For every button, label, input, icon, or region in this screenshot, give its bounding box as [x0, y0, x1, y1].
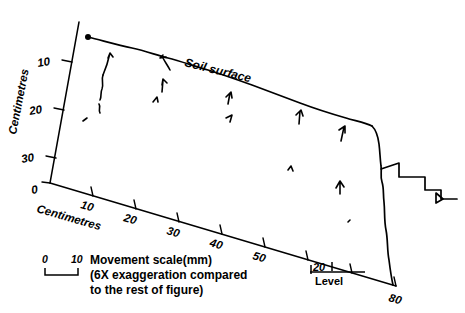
vertical-tick-label-30: 30: [20, 151, 35, 165]
vertical-tick-label-0: 0: [30, 183, 39, 196]
displacement-vector-12: [348, 220, 350, 222]
vertical-axis-tick-0: [42, 182, 50, 183]
vertical-axis-title: Centimetres: [6, 68, 30, 136]
vertical-axis-tick-10: [62, 60, 72, 62]
movement-scale-line2: (6X exaggeration compared: [90, 268, 247, 282]
stepped-profile-line: [381, 163, 457, 199]
stepped-profile-arrow-head: [436, 193, 443, 203]
horizontal-tick-label-30: 30: [165, 224, 181, 239]
horizontal-tick-label-10: 10: [79, 198, 95, 213]
displacement-vector-6: [226, 92, 232, 104]
movement-scale-bar: [45, 268, 78, 275]
displacement-vector-7: [226, 115, 232, 122]
horizontal-tick-label-40: 40: [207, 236, 224, 252]
movement-scale-legend: [45, 268, 78, 275]
right-boundary: [372, 126, 393, 285]
displacement-vector-0-tail: [100, 75, 103, 100]
vertical-tick-label-10: 10: [36, 55, 51, 69]
level-scale-value: 20: [312, 261, 326, 273]
displacement-vector-2: [83, 118, 87, 121]
displacement-vector-0: [103, 53, 113, 75]
movement-scale-line1: Movement scale(mm): [90, 253, 212, 267]
displacement-vector-10: [339, 126, 345, 141]
figure-canvas: 10 20 30 0 Centimetres 10 20 30 40 50 80…: [0, 0, 465, 313]
profile-origin-vertex: [85, 34, 91, 40]
horizontal-axis-tick-80: [394, 277, 396, 286]
horizontal-tick-label-50: 50: [251, 249, 267, 264]
vertical-axis: [42, 22, 79, 183]
horizontal-tick-label-20: 20: [121, 211, 138, 227]
level-label: Level: [315, 275, 343, 287]
displacement-vectors: [83, 53, 350, 222]
soil-surface-line: [88, 37, 372, 126]
horizontal-axis-tick-40: [220, 225, 222, 234]
displacement-vector-1: [99, 104, 100, 113]
vertical-tick-label-20: 20: [27, 103, 43, 117]
stepped-profile: [381, 163, 457, 203]
movement-scale-line3: to the rest of figure): [90, 283, 203, 297]
soil-surface-label: Soil surface: [183, 55, 253, 85]
displacement-vector-9: [296, 110, 303, 124]
movement-scale-end-label: 10: [71, 253, 83, 265]
right-boundary-line: [372, 126, 393, 285]
soil-profile-figure: 10 20 30 0 Centimetres 10 20 30 40 50 80…: [0, 0, 465, 313]
vertical-axis-tick-20: [54, 108, 64, 110]
horizontal-axis-tick-50: [263, 238, 265, 247]
displacement-vector-4: [162, 79, 167, 92]
movement-scale-start-label: 0: [42, 253, 48, 265]
vertical-axis-line: [50, 22, 79, 183]
displacement-vector-11: [336, 181, 344, 194]
horizontal-tick-label-80: 80: [387, 291, 403, 306]
displacement-vector-5: [153, 97, 158, 102]
displacement-vector-8: [288, 166, 293, 171]
